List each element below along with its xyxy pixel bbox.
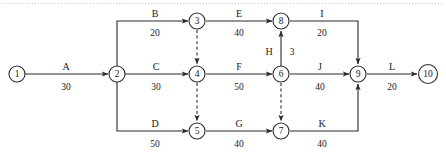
edge-label-b: B [152, 8, 159, 19]
node-7: 7 [273, 123, 289, 139]
node-label-2: 2 [115, 69, 120, 79]
node-label-4: 4 [195, 69, 200, 79]
edge-label-k: K [318, 118, 326, 129]
node-label-7: 7 [279, 126, 284, 136]
node-5: 5 [189, 123, 205, 139]
edge-label-j: J [318, 61, 322, 72]
edge-label-g: G [235, 118, 242, 129]
diagram-canvas: A30B20C30D50E40F50G40H3I20J40K40L20 1234… [0, 0, 446, 162]
edge-label-d: D [151, 118, 158, 129]
edge-duration-h: 3 [290, 47, 295, 57]
edge-duration-a: 30 [61, 82, 71, 92]
edge-label-e: E [236, 8, 242, 19]
node-label-1: 1 [15, 69, 20, 79]
edge-label-i: I [320, 8, 323, 19]
node-label-8: 8 [279, 16, 284, 26]
edge-duration-g: 40 [234, 139, 244, 149]
dummy-edges-layer [197, 30, 281, 121]
node-1: 1 [9, 66, 25, 82]
node-label-5: 5 [195, 126, 200, 136]
node-label-9: 9 [356, 69, 361, 79]
edge-duration-i: 20 [317, 28, 327, 38]
edge-duration-j: 40 [315, 82, 325, 92]
edge-duration-d: 50 [150, 139, 160, 149]
edge-duration-k: 40 [317, 139, 327, 149]
edge-label-h: H [265, 46, 272, 57]
node-label-10: 10 [423, 69, 433, 79]
node-3: 3 [189, 13, 205, 29]
node-10: 10 [419, 65, 438, 84]
edge-duration-c: 30 [151, 82, 161, 92]
node-9: 9 [350, 66, 366, 82]
node-4: 4 [189, 66, 205, 82]
edge-duration-e: 40 [234, 28, 244, 38]
edge-label-f: F [236, 61, 242, 72]
edge-label-c: C [153, 61, 160, 72]
node-label-3: 3 [195, 16, 200, 26]
edge-duration-b: 20 [150, 28, 160, 38]
edge-duration-l: 20 [387, 82, 397, 92]
network-diagram: A30B20C30D50E40F50G40H3I20J40K40L20 1234… [0, 0, 446, 162]
node-6: 6 [273, 66, 289, 82]
node-2: 2 [109, 66, 125, 82]
nodes-layer: 12345678910 [9, 13, 438, 139]
node-8: 8 [273, 13, 289, 29]
edge-label-l: L [389, 61, 395, 72]
edge-label-a: A [62, 61, 70, 72]
node-label-6: 6 [279, 69, 284, 79]
edge-duration-f: 50 [234, 82, 244, 92]
